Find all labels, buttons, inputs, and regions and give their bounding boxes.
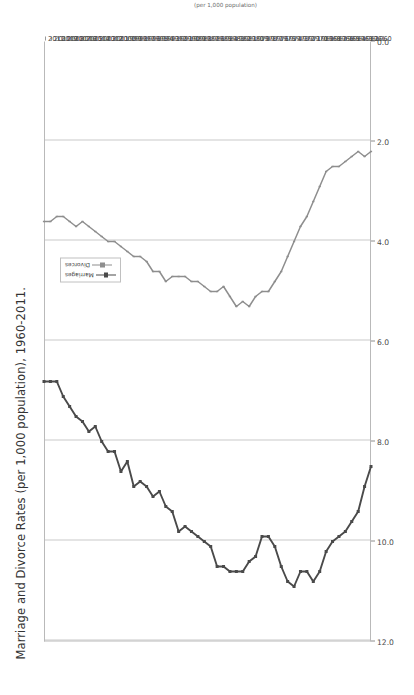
year-tick-label: 2011 bbox=[48, 34, 65, 42]
series-marker bbox=[267, 535, 270, 538]
series-marker bbox=[178, 275, 180, 276]
series-marker bbox=[43, 220, 45, 221]
series-marker bbox=[94, 425, 97, 428]
value-tick-label: 2.0 bbox=[377, 138, 389, 147]
value-tick bbox=[371, 140, 375, 141]
series-line-divorces bbox=[44, 151, 371, 306]
series-marker bbox=[235, 570, 238, 573]
legend-label-divorces: Divorces bbox=[65, 262, 90, 268]
series-marker bbox=[357, 150, 359, 151]
series-marker bbox=[158, 490, 161, 493]
series-marker bbox=[184, 525, 187, 528]
legend-label-marriages: Marriages bbox=[65, 272, 94, 278]
legend-swatch-divorces bbox=[92, 261, 112, 268]
series-marker bbox=[261, 290, 263, 291]
series-marker bbox=[158, 270, 160, 271]
value-tick bbox=[371, 240, 375, 241]
chart-screenshot: Marriage and Divorce Rates (per 1,000 po… bbox=[0, 0, 414, 695]
legend-item-marriages: Marriages bbox=[65, 271, 116, 278]
value-tick bbox=[371, 340, 375, 341]
legend: Marriages Divorces bbox=[60, 257, 121, 282]
series-marker bbox=[113, 240, 115, 241]
series-marker bbox=[81, 220, 83, 221]
series-marker bbox=[62, 215, 64, 216]
series-marker bbox=[222, 285, 224, 286]
plot-area bbox=[44, 41, 371, 641]
series-marker bbox=[261, 535, 264, 538]
legend-item-divorces: Divorces bbox=[65, 261, 116, 268]
series-marker bbox=[242, 300, 244, 301]
value-tick bbox=[371, 440, 375, 441]
legend-swatch-marriages bbox=[96, 271, 116, 278]
series-marker bbox=[113, 450, 116, 453]
value-tick-label: 6.0 bbox=[377, 338, 389, 347]
series-marker bbox=[49, 380, 52, 383]
series-marker bbox=[299, 570, 302, 573]
series-marker bbox=[139, 255, 141, 256]
series-marker bbox=[222, 565, 225, 568]
chart-title: Marriage and Divorce Rates (per 1,000 po… bbox=[14, 0, 28, 695]
value-tick-label: 10.0 bbox=[377, 538, 394, 547]
value-axis-title: (per 1,000 population) bbox=[194, 1, 257, 7]
series-layer bbox=[44, 41, 371, 641]
series-line-marriages bbox=[44, 381, 371, 586]
series-marker bbox=[184, 275, 186, 276]
series-marker bbox=[305, 570, 308, 573]
series-marker bbox=[331, 165, 333, 166]
series-marker bbox=[43, 380, 46, 383]
series-marker bbox=[139, 480, 142, 483]
value-tick-label: 8.0 bbox=[377, 438, 389, 447]
series-marker bbox=[171, 275, 173, 276]
series-marker bbox=[56, 215, 58, 216]
value-tick bbox=[371, 540, 375, 541]
series-marker bbox=[197, 280, 199, 281]
series-marker bbox=[55, 380, 58, 383]
series-marker bbox=[126, 460, 129, 463]
value-axis: 12.010.08.06.04.02.00.0 bbox=[371, 40, 411, 641]
value-tick-label: 4.0 bbox=[377, 238, 389, 247]
value-tick bbox=[371, 640, 375, 641]
year-axis: (per 1,000 population) 19601961196219631… bbox=[44, 0, 374, 41]
figure: Marriage and Divorce Rates (per 1,000 po… bbox=[0, 0, 414, 695]
value-tick-label: 12.0 bbox=[377, 638, 394, 647]
